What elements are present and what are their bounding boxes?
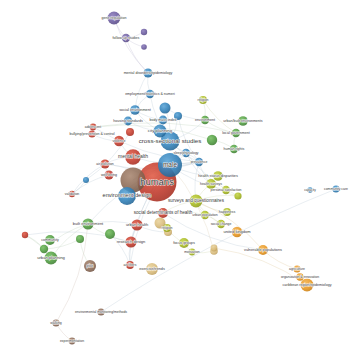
network-edge bbox=[263, 250, 297, 269]
network-node[interactable] bbox=[141, 44, 147, 50]
network-node[interactable]: housing standards bbox=[124, 117, 133, 126]
network-node[interactable]: city planning bbox=[154, 125, 167, 138]
network-edge bbox=[205, 120, 236, 133]
network-node[interactable]: violence bbox=[114, 136, 124, 146]
network-node[interactable]: organization & innovation bbox=[296, 273, 304, 281]
network-node[interactable]: vulnerable populations bbox=[258, 245, 268, 255]
network-node[interactable] bbox=[211, 245, 218, 252]
network-node[interactable]: local government bbox=[232, 129, 240, 137]
network-node[interactable] bbox=[126, 128, 134, 136]
network-node[interactable]: built environment bbox=[82, 218, 93, 229]
network-graph[interactable]: humansmalecross-sectional studiesenviron… bbox=[0, 0, 363, 355]
network-node[interactable]: adolescent bbox=[90, 124, 97, 131]
network-node[interactable]: employment/statistics & numeri bbox=[146, 90, 154, 98]
network-node[interactable]: bullying/prevention & control bbox=[88, 130, 95, 137]
network-node[interactable]: capacity bbox=[307, 187, 313, 193]
network-node[interactable]: well-being bbox=[104, 170, 113, 179]
network-node[interactable]: personal satisfaction bbox=[222, 186, 230, 194]
network-node[interactable]: gene regulation bbox=[108, 12, 121, 25]
network-node[interactable]: body mass index bbox=[159, 116, 168, 125]
network-node[interactable] bbox=[160, 103, 171, 114]
network-node[interactable]: health surveys bbox=[206, 179, 216, 189]
network-node[interactable] bbox=[207, 135, 217, 145]
network-edge bbox=[101, 189, 336, 312]
network-edge bbox=[135, 73, 148, 110]
network-node[interactable] bbox=[76, 235, 84, 243]
network-node[interactable]: health status disparities bbox=[213, 171, 223, 181]
network-node[interactable]: community care bbox=[332, 185, 339, 192]
network-node[interactable]: happiness bbox=[223, 208, 231, 216]
network-node[interactable]: research design bbox=[125, 236, 136, 247]
edge-layer bbox=[25, 18, 336, 341]
network-node[interactable]: urban planning bbox=[45, 252, 58, 265]
network-node[interactable]: surveys and questionnaires bbox=[190, 195, 203, 208]
node-layer[interactable]: humansmalecross-sectional studiesenviron… bbox=[22, 12, 340, 345]
network-edge bbox=[72, 175, 109, 194]
network-map-canvas[interactable]: humansmalecross-sectional studiesenviron… bbox=[0, 0, 363, 355]
network-node[interactable]: motivation bbox=[189, 249, 196, 256]
network-node[interactable]: environment bbox=[201, 116, 209, 124]
network-node[interactable] bbox=[83, 177, 89, 183]
network-node[interactable]: environmental monitoring/methods bbox=[97, 308, 104, 315]
network-node[interactable]: environment design bbox=[118, 187, 136, 205]
network-edge bbox=[56, 323, 72, 341]
network-edge bbox=[165, 108, 205, 120]
network-node[interactable]: air filters bbox=[126, 261, 134, 269]
network-node[interactable]: focus groups bbox=[179, 238, 189, 248]
network-node[interactable]: agriculture bbox=[293, 265, 300, 272]
network-node[interactable]: mental disorders/epidemiology bbox=[143, 68, 152, 77]
network-edge bbox=[126, 38, 148, 73]
network-node[interactable]: mental health bbox=[125, 149, 141, 165]
network-node[interactable]: human rights bbox=[230, 145, 238, 153]
network-node[interactable]: urban health bbox=[131, 219, 142, 230]
network-node[interactable]: validation bbox=[69, 191, 75, 197]
network-node[interactable]: prevalence bbox=[195, 158, 203, 166]
network-node[interactable]: air pollution bbox=[100, 159, 109, 168]
network-edge bbox=[93, 127, 199, 162]
network-node[interactable] bbox=[141, 29, 147, 35]
network-node[interactable]: pilot bbox=[84, 260, 96, 272]
network-edge bbox=[163, 211, 205, 215]
network-node[interactable] bbox=[174, 112, 182, 120]
network-node[interactable] bbox=[105, 229, 115, 239]
network-node[interactable] bbox=[234, 192, 241, 199]
network-node[interactable]: follow-up studies bbox=[122, 34, 130, 42]
network-node[interactable]: exercise/trends bbox=[146, 263, 158, 275]
network-node[interactable]: urban/built environments bbox=[238, 116, 248, 126]
network-node[interactable]: social environment bbox=[130, 105, 140, 115]
network-node[interactable]: sleep/physiology bbox=[182, 149, 190, 157]
network-node[interactable]: walking bbox=[52, 319, 59, 326]
network-node[interactable] bbox=[40, 245, 48, 253]
network-node[interactable]: united kingdom bbox=[232, 227, 242, 237]
network-node[interactable] bbox=[22, 232, 28, 238]
figure-caption bbox=[0, 340, 363, 355]
network-node[interactable]: social determinants of health bbox=[158, 208, 168, 218]
network-node[interactable]: community bbox=[45, 235, 55, 245]
network-node[interactable]: caribbean region/epidemiology bbox=[301, 279, 314, 292]
network-edge bbox=[88, 222, 137, 225]
network-node[interactable]: social change bbox=[217, 220, 225, 228]
network-node[interactable]: urban population bbox=[201, 211, 209, 219]
network-edge bbox=[93, 125, 212, 140]
network-node[interactable]: religion bbox=[199, 96, 207, 104]
network-node[interactable]: religion bbox=[163, 224, 171, 232]
network-node[interactable]: male bbox=[158, 153, 182, 177]
